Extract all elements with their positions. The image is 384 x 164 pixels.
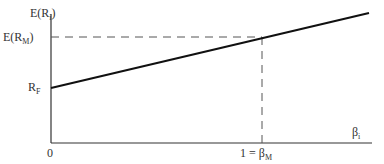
y-axis-label: E(Ri) xyxy=(30,6,56,22)
x-axis-label: βi xyxy=(352,125,361,141)
sml-chart: E(Ri) E(RM) RF 0 1 = βM βi xyxy=(0,0,384,164)
beta-m-label: 1 = βM xyxy=(240,146,272,162)
security-market-line xyxy=(51,13,369,88)
origin-label: 0 xyxy=(47,146,53,160)
erm-label: E(RM) xyxy=(3,30,33,46)
rf-label: RF xyxy=(28,80,41,96)
